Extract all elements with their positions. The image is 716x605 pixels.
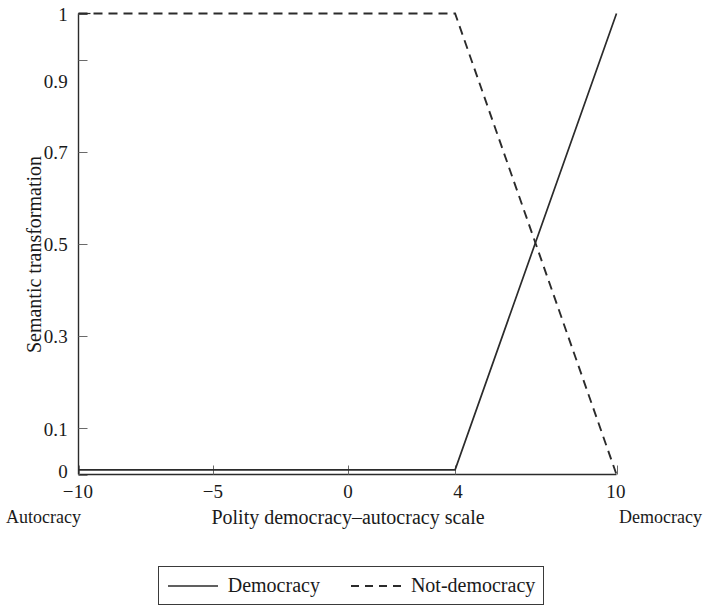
chart-plot-area (0, 0, 716, 545)
y-axis-title: Semantic transformation (23, 125, 46, 385)
y-tick-label-0_9: 0.9 (8, 72, 68, 91)
legend-entries: DemocracyNot-democracy (159, 567, 543, 604)
data-series-layer (79, 14, 617, 475)
legend-entry-label: Not-democracy (411, 574, 535, 597)
y-tick-label-0_1: 0.1 (8, 420, 68, 439)
legend-entry-not-democracy[interactable]: Not-democracy (350, 574, 535, 597)
x-axis-right-anchor-label: Democracy (619, 507, 702, 528)
y-tick-label-1: 1 (8, 5, 68, 24)
y-axis-ticks (79, 15, 88, 476)
solid-line-icon (167, 580, 219, 592)
x-axis-title: Polity democracy–autocracy scale (178, 506, 518, 529)
chart-figure: 1 0.9 0.7 0.5 0.3 0.1 0 −10 −5 0 4 10 Se… (0, 0, 716, 605)
legend-entry-democracy[interactable]: Democracy (167, 574, 320, 597)
x-tick-label-minus10: −10 (43, 482, 113, 501)
x-tick-label-0: 0 (313, 482, 383, 501)
series-line-not-democracy (79, 14, 617, 475)
dashed-line-icon (350, 580, 402, 592)
x-tick-label-10: 10 (581, 482, 651, 501)
legend-entry-label: Democracy (228, 574, 320, 597)
x-axis-left-anchor-label: Autocracy (6, 507, 81, 528)
y-tick-label-0: 0 (8, 462, 68, 481)
x-tick-label-4: 4 (423, 482, 493, 501)
x-tick-label-minus5: −5 (178, 482, 248, 501)
chart-legend: DemocracyNot-democracy (158, 566, 544, 605)
